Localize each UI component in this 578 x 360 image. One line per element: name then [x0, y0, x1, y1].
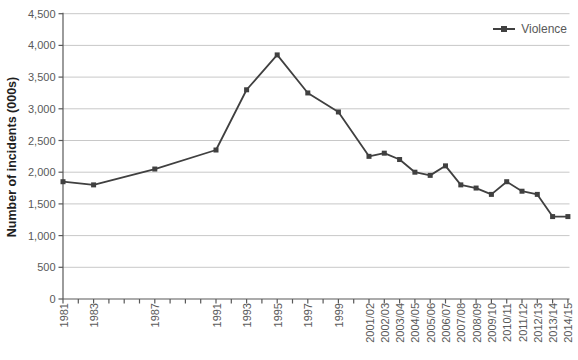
- x-tick-label: 1983: [88, 303, 100, 327]
- data-point-marker: [382, 151, 387, 156]
- data-point-marker: [565, 214, 570, 219]
- data-point-marker: [305, 90, 310, 95]
- data-point-marker: [489, 192, 494, 197]
- data-point-marker: [367, 154, 372, 159]
- x-tick-label: 2006/07: [440, 303, 452, 343]
- x-tick-label: 2010/11: [501, 303, 513, 342]
- data-point-marker: [474, 186, 479, 191]
- data-point-marker: [275, 52, 280, 57]
- x-tick-label: 2007/08: [455, 303, 467, 343]
- data-point-marker: [397, 157, 402, 162]
- x-tick-label: 1981: [58, 303, 70, 327]
- data-point-marker: [458, 182, 463, 187]
- y-tick-label: 0: [49, 293, 55, 305]
- x-tick-label: 2008/09: [471, 303, 483, 343]
- data-point-marker: [244, 87, 249, 92]
- x-tick-label: 2004/05: [409, 303, 421, 343]
- legend-line-marker-icon: [493, 24, 515, 34]
- x-tick-label: 2013/14: [547, 303, 559, 343]
- x-tick-label: 2012/13: [532, 303, 544, 343]
- y-axis-title: Number of incidents (000s): [5, 7, 21, 307]
- y-tick-label: 3,500: [28, 71, 56, 83]
- data-point-marker: [152, 167, 157, 172]
- x-tick-label: 1997: [302, 303, 314, 327]
- y-tick-label: 4,000: [28, 39, 56, 51]
- x-tick-label: 1993: [241, 303, 253, 327]
- y-tick-label: 1,000: [28, 230, 56, 242]
- data-point-marker: [91, 182, 96, 187]
- y-tick-label: 4,500: [28, 8, 56, 20]
- x-tick-label: 2003/04: [394, 303, 406, 343]
- data-point-marker: [535, 192, 540, 197]
- data-point-marker: [550, 214, 555, 219]
- data-point-marker: [214, 148, 219, 153]
- violence-trend-chart: 05001,0001,5002,0002,5003,0003,5004,0004…: [0, 0, 578, 360]
- data-point-marker: [504, 179, 509, 184]
- x-tick-label: 2011/12: [517, 303, 529, 342]
- data-point-marker: [520, 189, 525, 194]
- x-tick-label: 1995: [272, 303, 284, 327]
- data-point-marker: [61, 179, 66, 184]
- x-tick-label: 2005/06: [425, 303, 437, 343]
- data-point-marker: [428, 173, 433, 178]
- x-tick-label: 1987: [149, 303, 161, 327]
- legend: Violence: [493, 21, 567, 37]
- x-tick-label: 2009/10: [486, 303, 498, 343]
- x-tick-label: 1991: [211, 303, 223, 327]
- x-tick-label: 2001/02: [364, 303, 376, 343]
- x-tick-label: 1999: [333, 303, 345, 327]
- plot-area: 05001,0001,5002,0002,5003,0003,5004,0004…: [0, 0, 578, 360]
- data-point-marker: [336, 109, 341, 114]
- data-point-marker: [443, 163, 448, 168]
- y-tick-label: 3,000: [28, 103, 56, 115]
- y-tick-label: 1,500: [28, 198, 56, 210]
- y-tick-label: 500: [37, 261, 55, 273]
- y-tick-label: 2,500: [28, 135, 56, 147]
- data-point-marker: [412, 170, 417, 175]
- x-tick-label: 2002/03: [379, 303, 391, 343]
- x-tick-label: 2014/15: [562, 303, 574, 343]
- legend-series-label: Violence: [521, 22, 567, 36]
- y-tick-label: 2,000: [28, 166, 56, 178]
